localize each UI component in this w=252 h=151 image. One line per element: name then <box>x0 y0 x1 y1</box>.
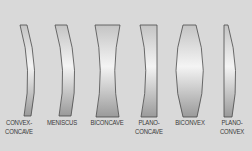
label-biconcave: BICONCAVE <box>89 119 125 128</box>
plano-concave-lens <box>140 25 157 117</box>
biconvex-lens <box>176 25 203 117</box>
meniscus-lens <box>55 25 75 116</box>
biconcave-lens <box>95 25 120 117</box>
label-plano-concave: PLANO- CONCAVE <box>134 119 165 136</box>
label-biconvex: BICONVEX <box>173 119 207 128</box>
lens-shapes <box>0 0 252 151</box>
label-plano-convex: PLANO- CONVEX <box>218 119 247 136</box>
plano-convex-lens <box>224 25 236 117</box>
lens-types-diagram: CONVEX- CONCAVE MENISCUS BICONCAVE PLANO… <box>0 0 252 151</box>
label-convex-concave: CONVEX- CONCAVE <box>5 119 34 136</box>
label-meniscus: MENISCUS <box>45 119 79 128</box>
convex-concave-lens <box>20 25 35 116</box>
